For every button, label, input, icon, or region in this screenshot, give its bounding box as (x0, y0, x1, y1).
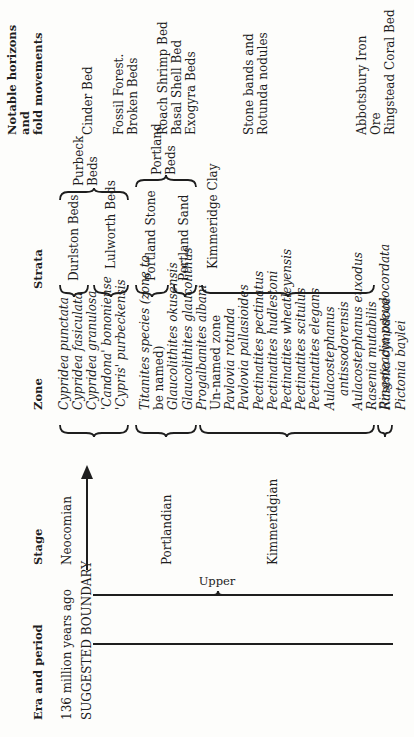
header-zone: Zone (32, 378, 45, 410)
strata-purbeck-line1: Purbeck (72, 136, 86, 186)
era-upper-label: Upper (197, 574, 237, 588)
stage-portlandian: Portlandian (160, 495, 174, 566)
strata-portland-sand: Portland Sand (177, 195, 191, 281)
notable-abbotsbury: Abbotsbury Iron Ore Ringstead Coral Bed (355, 9, 398, 135)
header-notable-line3: fold movements (32, 25, 45, 135)
stage-neocomian: Neocomian (60, 496, 74, 565)
zone-item: Pavlovia pallasioides (237, 249, 251, 410)
zone-item: Pectinatites wheatleyensis (280, 249, 294, 410)
strata-portland-stone: Portland Stone (144, 190, 158, 281)
header-era-and-period: Era and period (32, 624, 45, 720)
notable-stone-bands: Stone bands and Rotunda nodules (242, 32, 270, 135)
arrow-head-icon (81, 465, 93, 479)
zone-brace-ringsteadia (376, 423, 394, 437)
zone-item: antissodorensis (337, 249, 351, 410)
era-suggested-boundary: SUGGESTED BOUNDARY (80, 561, 94, 720)
zone-brace-portlandian (134, 423, 198, 437)
strata-kimmeridge-clay: Kimmeridge Clay (206, 164, 220, 269)
notable-portland-horizons: Roach Shrimp Bed Basal Shell Bed Exogyra… (156, 21, 199, 135)
zone-item: Un-named zone (209, 249, 223, 410)
zone-item: Pectinatites scitulus (294, 249, 308, 410)
notable-line: Exogyra Beds (184, 21, 198, 135)
upper-brace-cusp (210, 589, 226, 601)
strata-brace-portland-sand (172, 283, 198, 297)
zone-item: Pictonia baylei (394, 249, 408, 410)
notable-line: Roach Shrimp Bed (156, 21, 170, 135)
notable-fossil-forest: Fossil Forest. Broken Beds (112, 54, 140, 135)
strata-brace-lulworth (92, 283, 130, 297)
zone-brace-neocomian (58, 423, 130, 437)
zone-item: Pavlovia rotunda (223, 249, 237, 410)
strata-brace-kimmeridge (200, 283, 376, 297)
strata-purbeck-line2: Beds (86, 136, 100, 186)
zone-ringsteadia: Ringsteadia pseudocordata (378, 244, 392, 410)
boundary-line-lower (93, 643, 393, 645)
notable-line: Ore (369, 9, 383, 135)
strata-brace-durlston (58, 283, 90, 297)
header-notable-horizons: Notable horizons and fold movements (6, 25, 45, 135)
header-strata: Strata (32, 249, 45, 289)
notable-line: Abbotsbury Iron (355, 9, 369, 135)
zone-item: Pectinatites pectinatus (252, 249, 266, 410)
boundary-line-upper (93, 594, 393, 596)
notable-cinder-bed: Cinder Bed (81, 66, 95, 135)
zone-item: Progalbanites albani (195, 247, 209, 410)
zone-brace-kimmeridgian (198, 423, 376, 437)
zone-item: Aulacostephanus (323, 249, 337, 410)
strata-durlston-beds: Durlston Beds (67, 195, 81, 281)
zone-item: Pectinatites elegans (308, 249, 322, 410)
strata-brace-portland-beds (134, 175, 198, 189)
strata-brace-purbeck (58, 188, 130, 202)
zone-item: Aulacostephanus euxodus (351, 249, 365, 410)
notable-line: Stone bands and (242, 32, 256, 135)
strata-brace-portland-stone (134, 283, 170, 297)
notable-line: Ringstead Coral Bed (383, 9, 397, 135)
era-age: 136 million years ago (60, 589, 74, 720)
notable-line: Basal Shell Bed (170, 21, 184, 135)
zone-item: Pectinatites hudlestoni (266, 249, 280, 410)
notable-line: Broken Beds (126, 54, 140, 135)
stage-boundary-arrow-shaft (86, 474, 88, 570)
notable-line: Rotunda nodules (256, 32, 270, 135)
stage-kimmeridgian: Kimmeridgian (266, 479, 280, 565)
stratigraphy-table-page: Era and period Stage Zone Strata Notable… (0, 0, 414, 737)
strata-purbeck-beds: Purbeck Beds (72, 136, 100, 186)
notable-line: Fossil Forest. (112, 54, 126, 135)
header-stage: Stage (32, 529, 45, 565)
